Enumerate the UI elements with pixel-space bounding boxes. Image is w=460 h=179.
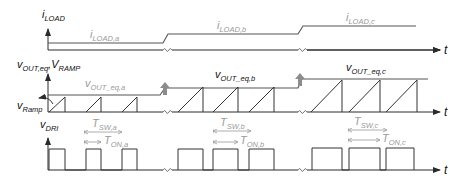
vdri-axis-label: vDRI — [40, 118, 58, 133]
vout-eq-c-label: vOUT_eq,c — [346, 61, 386, 76]
drive-pulses-a — [49, 149, 137, 170]
ton-c-label: TON,c — [382, 132, 406, 147]
vout-time-label: t — [444, 105, 448, 119]
vramp-label: vRamp — [17, 99, 43, 114]
iload-time-label: t — [444, 43, 448, 57]
iload-level-b-label: iLOAD,b — [217, 19, 246, 34]
axis-break-icon — [163, 111, 172, 114]
iload-level-c-label: iLOAD,c — [346, 11, 375, 26]
ramp-waveform-c — [311, 80, 417, 112]
vout-axis-label: vOUT,eq,VRAMP — [17, 58, 80, 73]
vdri-time-label: t — [444, 163, 448, 177]
vout-panel: vOUT,eq,VRAMP t vOUT_eq,a vOUT_eq,b vOUT — [17, 58, 448, 119]
axis-break-icon — [298, 111, 307, 114]
axis-break-icon — [163, 169, 172, 172]
ramp-waveform-b — [178, 87, 274, 112]
tsw-b-label: TSW,b — [220, 116, 245, 131]
ton-a-label: TON,a — [104, 134, 128, 149]
axis-break-icon — [163, 49, 172, 52]
ton-b-label: TON,b — [240, 134, 264, 149]
vout-eq-b-label: vOUT_eq,b — [215, 68, 255, 83]
vout-eq-a-label: vOUT_eq,a — [85, 77, 125, 92]
tsw-c-label: TSW,c — [354, 115, 379, 130]
iload-panel: iLOAD t iLOAD,a iLOAD,b iLOAD,c — [42, 8, 448, 57]
axis-break-icon — [298, 49, 307, 52]
tsw-a-label: TSW,a — [92, 117, 117, 132]
timing-diagram: iLOAD t iLOAD,a iLOAD,b iLOAD,c vOUT,eq,… — [0, 0, 460, 179]
drive-pulses-c — [312, 148, 414, 170]
iload-axis-label: iLOAD — [42, 8, 65, 23]
vdri-panel: vDRI t TSW,a TON,a TSW,b TON,b — [40, 115, 448, 177]
iload-level-a-label: iLOAD,a — [90, 28, 119, 43]
axis-break-icon — [298, 169, 307, 172]
drive-pulses-b — [178, 149, 274, 170]
vramp-pointer-arrow — [39, 98, 53, 104]
ramp-waveform-a — [49, 97, 137, 112]
